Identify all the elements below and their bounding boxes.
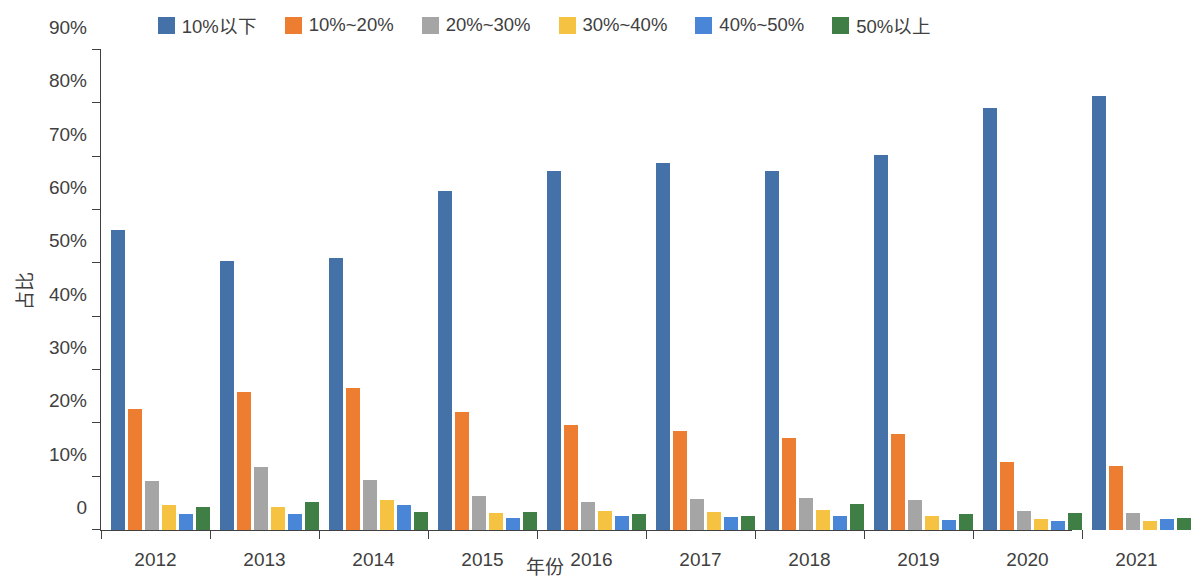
y-axis-tick-label: 70% bbox=[49, 124, 87, 146]
bar[interactable] bbox=[765, 171, 779, 530]
legend-swatch-icon bbox=[285, 17, 302, 34]
bar[interactable] bbox=[506, 518, 520, 530]
legend-item[interactable]: 20%~30% bbox=[422, 14, 531, 36]
bar-groups: 2012201320142015201620172018201920202021 bbox=[101, 50, 1072, 530]
bar[interactable] bbox=[1051, 521, 1065, 530]
bar[interactable] bbox=[196, 507, 210, 530]
x-axis-tick bbox=[646, 530, 647, 539]
bar[interactable] bbox=[656, 163, 670, 530]
bar[interactable] bbox=[782, 438, 796, 530]
legend-label: 10%以下 bbox=[182, 12, 257, 38]
x-axis-tick bbox=[319, 530, 320, 539]
bar[interactable] bbox=[1068, 513, 1082, 530]
legend-item[interactable]: 40%~50% bbox=[695, 14, 804, 36]
bar[interactable] bbox=[288, 514, 302, 530]
bar[interactable] bbox=[237, 392, 251, 530]
bar[interactable] bbox=[850, 504, 864, 530]
bar-group: 2019 bbox=[864, 50, 973, 530]
y-axis-tick-label: 80% bbox=[49, 70, 87, 92]
y-axis-tick bbox=[92, 476, 101, 477]
bar[interactable] bbox=[891, 434, 905, 530]
bar[interactable] bbox=[305, 502, 319, 530]
bar[interactable] bbox=[271, 507, 285, 530]
bar[interactable] bbox=[1017, 511, 1031, 530]
legend-item[interactable]: 30%~40% bbox=[559, 14, 668, 36]
bar[interactable] bbox=[455, 412, 469, 530]
bar[interactable] bbox=[1109, 466, 1123, 530]
bar[interactable] bbox=[874, 155, 888, 530]
chart-legend: 10%以下10%~20%20%~30%30%~40%40%~50%50%以上 bbox=[0, 12, 1089, 38]
bar[interactable] bbox=[220, 261, 234, 530]
bar[interactable] bbox=[908, 500, 922, 530]
bar-group: 2021 bbox=[1082, 50, 1191, 530]
legend-swatch-icon bbox=[158, 17, 175, 34]
bar[interactable] bbox=[707, 512, 721, 530]
legend-label: 10%~20% bbox=[309, 14, 394, 36]
bar[interactable] bbox=[615, 516, 629, 530]
y-axis-tick bbox=[92, 316, 101, 317]
bar[interactable] bbox=[690, 499, 704, 530]
bar[interactable] bbox=[1143, 521, 1157, 530]
bar[interactable] bbox=[1092, 96, 1106, 530]
bar[interactable] bbox=[581, 502, 595, 530]
y-axis-tick-label: 30% bbox=[49, 337, 87, 359]
bar[interactable] bbox=[816, 510, 830, 530]
bar[interactable] bbox=[380, 500, 394, 530]
legend-swatch-icon bbox=[422, 17, 439, 34]
bar[interactable] bbox=[179, 514, 193, 530]
y-axis-tick-label: 60% bbox=[49, 177, 87, 199]
x-axis-tick bbox=[1082, 530, 1083, 539]
bar[interactable] bbox=[346, 388, 360, 530]
bar[interactable] bbox=[925, 516, 939, 530]
bar[interactable] bbox=[799, 498, 813, 530]
bar[interactable] bbox=[1126, 513, 1140, 530]
bar[interactable] bbox=[111, 230, 125, 530]
bar[interactable] bbox=[673, 431, 687, 530]
bar[interactable] bbox=[397, 505, 411, 530]
bar[interactable] bbox=[1000, 462, 1014, 530]
bar-group: 2015 bbox=[428, 50, 537, 530]
bar[interactable] bbox=[741, 516, 755, 530]
bar[interactable] bbox=[547, 171, 561, 530]
y-axis-tick-label: 90% bbox=[49, 17, 87, 39]
x-axis-tick bbox=[428, 530, 429, 539]
bar[interactable] bbox=[363, 480, 377, 530]
y-axis-tick bbox=[92, 369, 101, 370]
x-axis-label: 2021 bbox=[1115, 549, 1157, 571]
legend-label: 20%~30% bbox=[446, 14, 531, 36]
bar[interactable] bbox=[128, 409, 142, 530]
x-axis-tick bbox=[973, 530, 974, 539]
bar-group: 2020 bbox=[973, 50, 1082, 530]
bar[interactable] bbox=[598, 511, 612, 530]
bar[interactable] bbox=[1160, 519, 1174, 530]
bar[interactable] bbox=[472, 496, 486, 530]
bar[interactable] bbox=[959, 514, 973, 530]
legend-item[interactable]: 10%以下 bbox=[158, 12, 257, 38]
bar[interactable] bbox=[1034, 519, 1048, 530]
bar[interactable] bbox=[414, 512, 428, 530]
x-axis-title: 年份 bbox=[0, 552, 1089, 579]
legend-item[interactable]: 10%~20% bbox=[285, 14, 394, 36]
legend-swatch-icon bbox=[832, 17, 849, 34]
x-axis-tick bbox=[101, 530, 102, 539]
bar[interactable] bbox=[254, 467, 268, 530]
bar[interactable] bbox=[162, 505, 176, 530]
bar[interactable] bbox=[145, 481, 159, 530]
x-axis-tick bbox=[755, 530, 756, 539]
x-axis-tick bbox=[210, 530, 211, 539]
bar[interactable] bbox=[833, 516, 847, 530]
bar[interactable] bbox=[523, 512, 537, 530]
bar[interactable] bbox=[489, 513, 503, 530]
bar[interactable] bbox=[329, 258, 343, 530]
bar[interactable] bbox=[942, 520, 956, 530]
bar[interactable] bbox=[564, 425, 578, 530]
legend-swatch-icon bbox=[559, 17, 576, 34]
bar[interactable] bbox=[438, 191, 452, 530]
bar[interactable] bbox=[724, 517, 738, 530]
legend-item[interactable]: 50%以上 bbox=[832, 12, 931, 38]
bar[interactable] bbox=[632, 514, 646, 530]
bar-group: 2014 bbox=[319, 50, 428, 530]
bar[interactable] bbox=[983, 108, 997, 530]
bar[interactable] bbox=[1177, 518, 1191, 530]
